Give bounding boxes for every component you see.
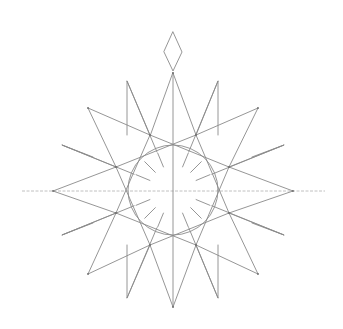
- radial-tick: [196, 175, 210, 181]
- secondary-point-ridge: [62, 206, 134, 235]
- vertex-dot: [257, 273, 259, 275]
- vertex-dot: [172, 72, 174, 74]
- radial-tick: [145, 208, 156, 219]
- radial-tick: [191, 208, 202, 219]
- secondary-point-ridge: [62, 145, 134, 174]
- secondary-point-ridge: [127, 228, 157, 298]
- secondary-point-ridge: [189, 81, 218, 152]
- secondary-point-ridge: [212, 145, 284, 174]
- vertex-dot: [292, 190, 294, 192]
- radial-tick: [158, 153, 164, 167]
- vertex-dot: [149, 244, 151, 246]
- vertex-dot: [257, 107, 259, 109]
- vertex-dot: [195, 134, 197, 136]
- radial-tick: [183, 213, 189, 227]
- star-drawing: [0, 0, 343, 329]
- radial-tick: [191, 162, 202, 173]
- radial-tick: [136, 175, 150, 181]
- star-cross-line: [116, 135, 196, 167]
- top-diamond: [164, 32, 182, 71]
- compass-rose-sketch: [0, 0, 343, 329]
- vertex-dot: [195, 244, 197, 246]
- vertex-dot: [228, 166, 230, 168]
- radial-tick: [136, 200, 150, 206]
- vertex-dot: [149, 134, 151, 136]
- vertex-dot: [52, 190, 54, 192]
- vertex-dot: [87, 107, 89, 109]
- vertex-dot: [115, 212, 117, 214]
- secondary-point-ridge: [212, 206, 284, 235]
- vertex-dot: [115, 166, 117, 168]
- vertex-dot: [228, 212, 230, 214]
- radial-tick: [183, 153, 189, 167]
- radial-tick: [158, 213, 164, 227]
- secondary-point-ridge: [189, 228, 218, 298]
- radial-tick: [196, 200, 210, 206]
- vertex-dot: [172, 306, 174, 308]
- star-cross-line: [116, 213, 196, 245]
- vertex-dot: [87, 273, 89, 275]
- radial-tick: [145, 162, 156, 173]
- secondary-point-ridge: [127, 81, 157, 152]
